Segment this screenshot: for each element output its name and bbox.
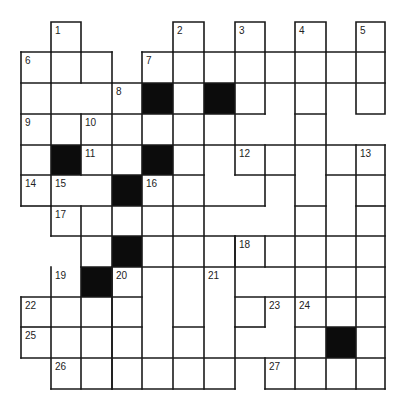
clue-number: 20 [116, 271, 127, 281]
clue-number: 23 [269, 301, 280, 311]
clue-number: 12 [239, 149, 250, 159]
clue-number: 7 [146, 56, 152, 66]
clue-number: 26 [55, 362, 66, 372]
clue-number: 4 [299, 26, 305, 36]
clue-number: 18 [239, 240, 250, 250]
clue-number: 24 [299, 301, 310, 311]
crossword-grid: 1234567891011121314151617181920212223242… [0, 0, 400, 409]
black-cell [112, 175, 142, 206]
black-cell [204, 83, 235, 114]
black-cell [142, 145, 173, 175]
clue-number: 22 [25, 301, 36, 311]
clue-number: 25 [25, 331, 36, 341]
clue-number: 1 [55, 26, 61, 36]
clue-number: 8 [116, 87, 122, 97]
clue-number: 2 [177, 26, 183, 36]
clue-number: 11 [85, 149, 95, 159]
clue-number: 3 [239, 26, 245, 36]
clue-number: 13 [360, 149, 371, 159]
clue-number: 19 [55, 271, 66, 281]
black-cell [142, 83, 173, 114]
clue-number: 14 [25, 179, 36, 189]
clue-number: 6 [25, 56, 31, 66]
black-cell [326, 327, 356, 358]
clue-number: 21 [208, 271, 219, 281]
clue-number: 17 [55, 210, 66, 220]
black-cell [81, 267, 112, 297]
clue-number: 15 [55, 179, 66, 189]
clue-number: 10 [85, 118, 96, 128]
clue-number: 5 [360, 26, 366, 36]
black-cell [112, 236, 142, 267]
clue-number: 16 [146, 179, 157, 189]
grid-lines [0, 0, 400, 409]
clue-number: 27 [269, 362, 280, 372]
black-cell [51, 145, 81, 175]
clue-number: 9 [25, 118, 31, 128]
